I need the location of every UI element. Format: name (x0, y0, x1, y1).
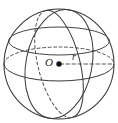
upper-latitude-front-arc (9, 41, 110, 55)
sphere-figure: O r (0, 0, 118, 123)
upper-latitude-back-arc (9, 27, 110, 41)
sphere-diagram-canvas (0, 0, 118, 123)
radius-label: r (72, 52, 76, 62)
center-point-label: O (45, 57, 53, 68)
center-point-dot (56, 61, 61, 66)
